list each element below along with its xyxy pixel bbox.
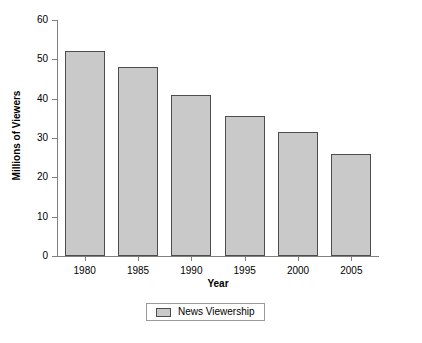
- y-tick-label: 10: [22, 212, 48, 222]
- y-tick-mark: [52, 256, 57, 257]
- y-tick-label: 50: [22, 54, 48, 64]
- y-tick-label-text: 10: [22, 212, 48, 222]
- y-tick-label-text: 60: [22, 15, 48, 25]
- y-tick-mark: [52, 99, 57, 100]
- bar: [278, 132, 318, 256]
- x-tick-label: 2005: [321, 265, 381, 276]
- bar: [331, 154, 371, 256]
- x-tick-mark: [245, 256, 246, 261]
- x-tick-mark: [351, 256, 352, 261]
- x-tick-mark: [298, 256, 299, 261]
- x-tick-label: 1990: [161, 265, 221, 276]
- x-axis-title: Year: [58, 278, 378, 289]
- x-tick-mark: [191, 256, 192, 261]
- x-tick-mark: [138, 256, 139, 261]
- x-axis-line: [58, 256, 379, 257]
- bar: [118, 67, 158, 256]
- chart-legend: News Viewership: [146, 303, 265, 321]
- y-tick-label: 30: [22, 133, 48, 143]
- x-tick-label: 2000: [268, 265, 328, 276]
- y-tick-label-text: 50: [22, 54, 48, 64]
- y-tick-label: 60: [22, 15, 48, 25]
- y-tick-label-text: 0: [22, 251, 48, 261]
- y-tick-label: 0: [22, 251, 48, 261]
- x-tick-label: 1995: [215, 265, 275, 276]
- y-tick-mark: [52, 177, 57, 178]
- y-tick-mark: [52, 138, 57, 139]
- legend-swatch-news-viewership: [156, 308, 171, 317]
- y-tick-label-text: 30: [22, 133, 48, 143]
- x-tick-mark: [85, 256, 86, 261]
- y-tick-label-text: 40: [22, 94, 48, 104]
- bar: [65, 51, 105, 256]
- bar: [171, 95, 211, 256]
- y-tick-label: 40: [22, 94, 48, 104]
- legend-label-news-viewership: News Viewership: [178, 307, 255, 317]
- x-tick-label: 1980: [55, 265, 115, 276]
- x-tick-label: 1985: [108, 265, 168, 276]
- y-tick-label: 20: [22, 172, 48, 182]
- y-tick-mark: [52, 217, 57, 218]
- plot-area: [58, 20, 378, 256]
- bar: [225, 116, 265, 256]
- y-tick-label-text: 20: [22, 172, 48, 182]
- bar-chart: 0102030405060 198019851990199520002005 Y…: [0, 0, 422, 343]
- y-tick-mark: [52, 59, 57, 60]
- y-tick-mark: [52, 20, 57, 21]
- y-axis-title: Millions of Viewers: [11, 66, 22, 206]
